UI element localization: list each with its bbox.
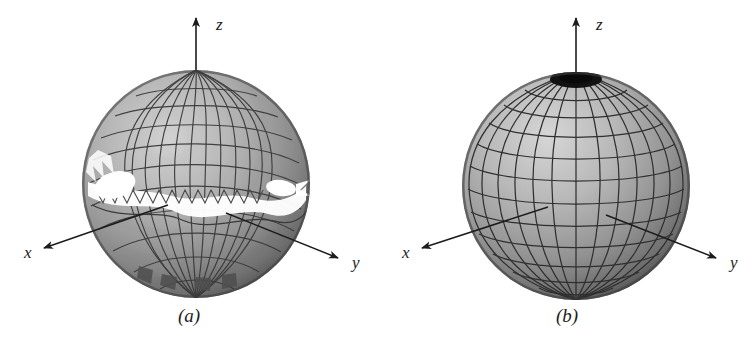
axis-label-y: y	[728, 253, 738, 272]
figure-container: z x y (a)	[0, 0, 756, 350]
sphere-a-scene: z x y	[0, 0, 378, 350]
caption-b: (b)	[378, 305, 756, 327]
axis-label-y: y	[350, 253, 360, 272]
axis-label-x: x	[401, 243, 410, 262]
axis-label-z: z	[215, 15, 223, 34]
sphere-b	[462, 70, 690, 300]
sphere-b-scene: z x y	[378, 0, 756, 350]
panel-b: z x y (b)	[378, 0, 756, 350]
axis-label-z: z	[595, 15, 603, 34]
caption-a: (a)	[0, 305, 378, 327]
panel-a: z x y (a)	[0, 0, 378, 350]
axis-label-x: x	[23, 243, 32, 262]
sphere-a	[82, 70, 312, 298]
